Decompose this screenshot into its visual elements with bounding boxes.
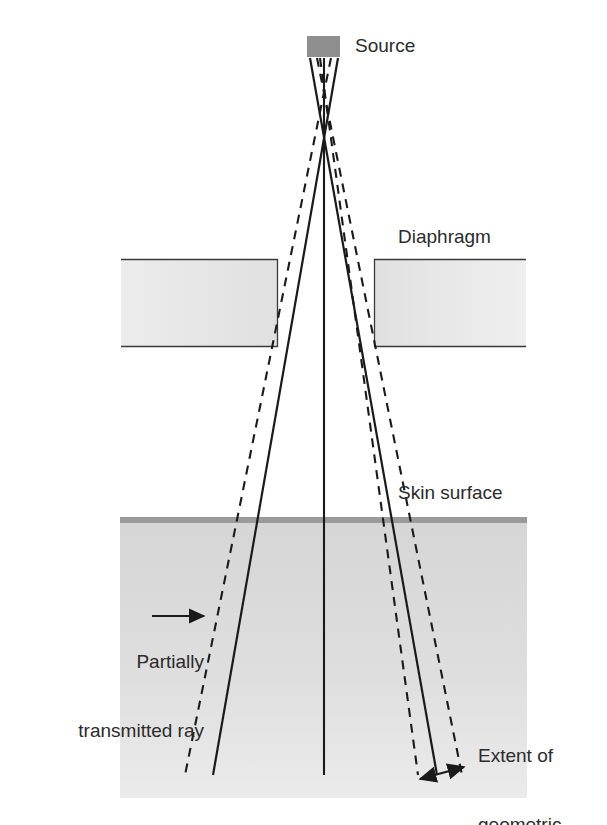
source-block xyxy=(307,36,340,57)
diaphragm-right-block xyxy=(374,259,526,347)
diaphragm-left-block xyxy=(121,259,278,347)
skin-surface-label: Skin surface xyxy=(398,481,503,504)
partially-transmitted-ray-label-line1: Partially xyxy=(36,650,204,673)
penumbra-extent-label: Extent of geometric penumbra xyxy=(478,698,564,825)
source-label: Source xyxy=(355,34,415,57)
partially-transmitted-ray-label-line2: transmitted ray xyxy=(36,719,204,742)
partially-transmitted-ray-label: Partially transmitted ray xyxy=(36,604,204,765)
penumbra-extent-label-line2: geometric xyxy=(478,813,564,825)
diaphragm-label: Diaphragm xyxy=(398,225,491,248)
penumbra-extent-label-line1: Extent of xyxy=(478,744,564,767)
